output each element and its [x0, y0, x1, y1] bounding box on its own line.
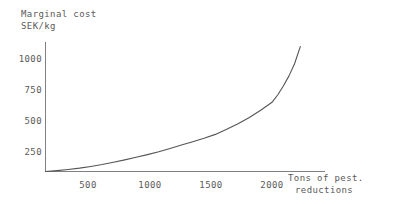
marginal-cost-curve [46, 47, 301, 172]
plot-area [0, 0, 393, 204]
chart-figure: Marginal cost SEK/kg 1000 750 500 250 50… [0, 0, 393, 204]
